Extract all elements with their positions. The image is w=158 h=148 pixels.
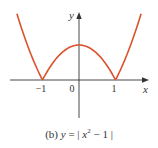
caption-tail: − 1 |	[91, 128, 113, 140]
caption-eq: = |	[66, 128, 83, 140]
x-tick-label-neg1: −1	[36, 83, 47, 94]
x-tick-label-0: 0	[70, 83, 75, 94]
caption-prefix: (b)	[45, 128, 61, 140]
x-axis-arrow-icon	[142, 77, 149, 82]
y-axis-label: y	[68, 9, 74, 21]
y-axis-arrow-icon	[76, 12, 81, 19]
x-tick-label-1: 1	[112, 83, 117, 94]
x-axis-label: x	[142, 83, 148, 95]
function-graph: y x −1 0 1	[0, 0, 158, 148]
figure-caption: (b) y = | x2 − 1 |	[0, 127, 158, 140]
